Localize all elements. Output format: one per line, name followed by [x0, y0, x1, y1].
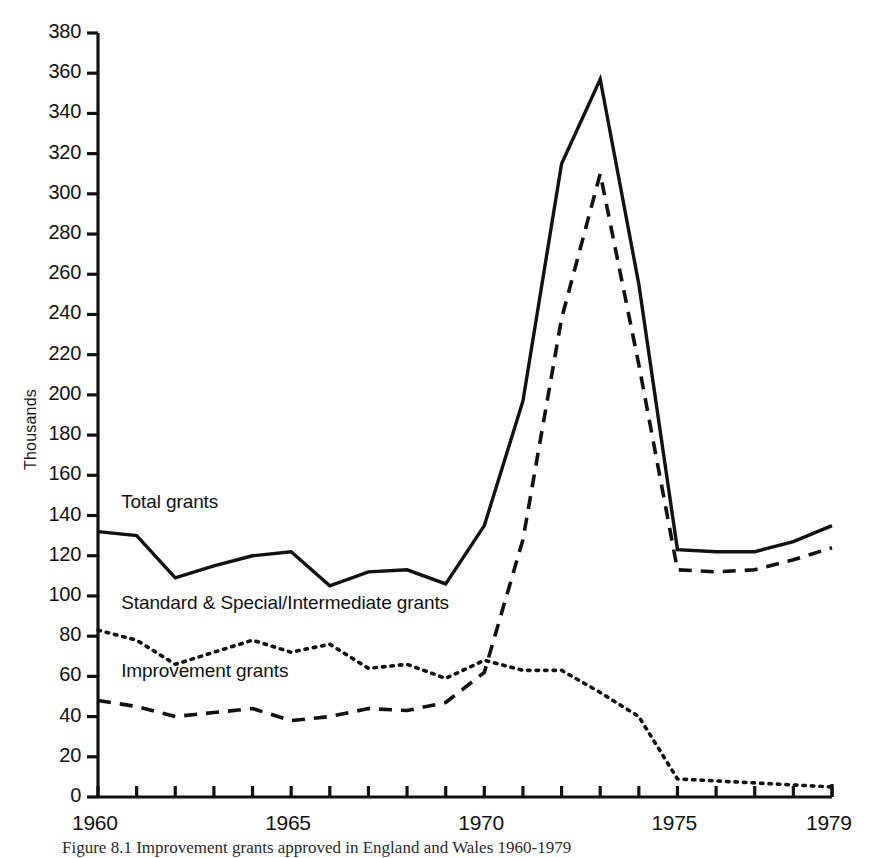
x-axis-tick-label: 1979 [806, 811, 852, 835]
y-axis-tick-label: 240 [49, 301, 81, 324]
series-label-3: Improvement grants [121, 660, 288, 682]
series-label-2: Standard & Special/Intermediate grants [121, 592, 449, 614]
x-axis-tick-label: 1970 [458, 811, 504, 835]
chart-axes [87, 33, 832, 797]
figure-caption: Figure 8.1 Improvement grants approved i… [62, 838, 842, 858]
x-axis-tick-label: 1965 [265, 811, 311, 835]
series-line-3 [98, 174, 832, 721]
y-axis-tick-label: 340 [49, 100, 81, 123]
y-axis-tick-label: 60 [59, 663, 81, 686]
y-axis-tick-label: 100 [49, 583, 81, 606]
x-axis-tick-label: 1960 [72, 811, 118, 835]
y-axis-tick-label: 200 [49, 382, 81, 405]
y-axis-tick-label: 300 [49, 181, 81, 204]
y-axis-tick-label: 320 [49, 141, 81, 164]
y-axis-tick-label: 380 [49, 20, 81, 43]
y-axis-tick-label: 40 [59, 704, 81, 727]
y-axis-tick-label: 260 [49, 261, 81, 284]
y-axis-tick-label: 180 [49, 422, 81, 445]
x-axis-tick-label: 1975 [651, 811, 697, 835]
y-axis-title: Thousands [22, 389, 40, 470]
y-axis-tick-label: 280 [49, 221, 81, 244]
y-axis-tick-label: 140 [49, 503, 81, 526]
series-label-1: Total grants [121, 491, 218, 513]
y-axis-tick-label: 160 [49, 462, 81, 485]
y-axis-tick-label: 20 [59, 744, 81, 767]
y-axis-tick-label: 360 [49, 60, 81, 83]
series-line-2 [98, 630, 832, 787]
y-axis-tick-label: 80 [59, 623, 81, 646]
y-axis-tick-label: 120 [49, 543, 81, 566]
y-axis-tick-label: 220 [49, 342, 81, 365]
y-axis-tick-label: 0 [70, 784, 81, 807]
